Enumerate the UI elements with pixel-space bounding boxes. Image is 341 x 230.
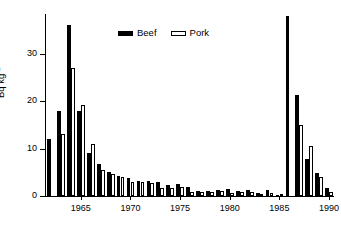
x-tick-label-1975: 1975 xyxy=(160,203,200,214)
bar-beef-1986 xyxy=(286,16,290,196)
legend-swatch-beef-icon xyxy=(118,31,133,36)
x-tick-label-1990: 1990 xyxy=(309,203,341,214)
bar-pork-1984 xyxy=(270,193,274,196)
bar-pork-1989 xyxy=(319,177,323,196)
bar-pork-1964 xyxy=(71,68,75,196)
x-axis-line xyxy=(45,196,334,197)
legend-label-beef: Beef xyxy=(137,28,157,38)
legend-label-pork: Pork xyxy=(190,28,210,38)
chart-legend: Beef Pork xyxy=(118,28,209,38)
bar-pork-1970 xyxy=(131,182,135,196)
legend-entry-beef: Beef xyxy=(118,28,157,38)
bar-pork-1967 xyxy=(101,170,105,196)
bar-pork-1972 xyxy=(150,183,154,196)
y-tick-label-wrap: 0 xyxy=(0,196,45,197)
y-tick-label-20: 20 xyxy=(13,96,37,105)
bar-pork-1966 xyxy=(91,144,95,196)
y-tick-label-wrap: 20 xyxy=(0,101,45,102)
bar-pork-1975 xyxy=(180,187,184,196)
x-tick-label-1985: 1985 xyxy=(259,203,299,214)
bar-pork-1980 xyxy=(230,193,234,196)
x-tick-1990 xyxy=(329,196,330,200)
bar-pork-1971 xyxy=(141,182,145,196)
y-axis-title-text: Bq kg xyxy=(0,74,6,98)
y-axis-title: Bq kg-1 xyxy=(0,67,6,98)
x-tick-label-1980: 1980 xyxy=(210,203,250,214)
y-axis-title-exponent: -1 xyxy=(0,67,1,73)
bars-layer xyxy=(46,14,334,196)
bar-pork-1982 xyxy=(250,192,254,196)
bar-pork-1981 xyxy=(240,192,244,196)
bar-pork-1985 xyxy=(280,194,284,196)
x-tick-label-1965: 1965 xyxy=(61,203,101,214)
bar-pork-1963 xyxy=(61,134,65,196)
y-tick-label-30: 30 xyxy=(13,49,37,58)
bar-pork-1977 xyxy=(200,192,204,196)
bar-pork-1979 xyxy=(220,191,224,196)
bar-chart: Bq kg-1 0102030 196519701975198019851990… xyxy=(0,0,341,230)
x-tick-1970 xyxy=(130,196,131,200)
bar-pork-1974 xyxy=(170,188,174,196)
bar-pork-1976 xyxy=(190,192,194,196)
bar-pork-1990 xyxy=(329,192,333,196)
y-tick-label-10: 10 xyxy=(13,144,37,153)
x-tick-1980 xyxy=(230,196,231,200)
legend-entry-pork: Pork xyxy=(171,28,210,38)
bar-pork-1983 xyxy=(260,194,264,196)
x-tick-1985 xyxy=(279,196,280,200)
bar-pork-1969 xyxy=(121,177,125,196)
bar-pork-1978 xyxy=(210,192,214,196)
bar-pork-1973 xyxy=(160,188,164,197)
bar-beef-1962 xyxy=(47,139,51,196)
y-tick-label-wrap: 10 xyxy=(0,149,45,150)
legend-swatch-pork-icon xyxy=(171,31,186,36)
x-tick-label-1970: 1970 xyxy=(110,203,150,214)
x-tick-1975 xyxy=(180,196,181,200)
bar-pork-1965 xyxy=(81,105,85,196)
y-tick-label-0: 0 xyxy=(13,191,37,200)
bar-pork-1987 xyxy=(299,125,303,196)
bar-pork-1968 xyxy=(111,174,115,196)
y-tick-label-wrap: 30 xyxy=(0,54,45,55)
x-tick-1965 xyxy=(81,196,82,200)
bar-pork-1988 xyxy=(309,146,313,196)
